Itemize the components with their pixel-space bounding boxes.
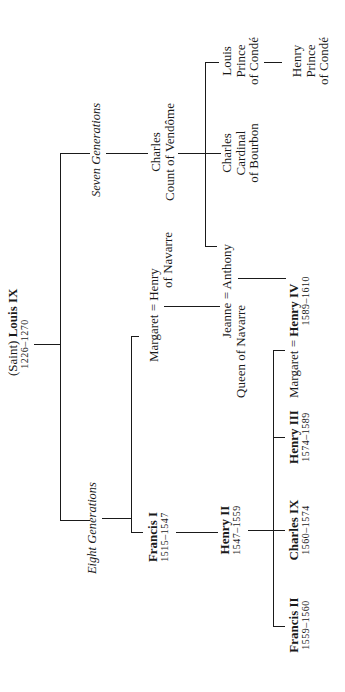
node-henry-iii: Henry III 1574–1589 (287, 404, 311, 470)
node-louis-ix: (Saint) Louis IX 1226–1270 (6, 312, 30, 376)
node-louis-conde: Louis Prince of Condé (220, 30, 261, 92)
charles-ix-years: 1560–1574 (301, 494, 312, 566)
node-charles-vendome: Charles Count of Vendôme (149, 96, 176, 208)
margaret-iv-stub (273, 350, 285, 351)
henry-conde-of: of Condé (317, 30, 331, 92)
cardinal-of: of Bourbon (247, 120, 261, 186)
henry-iii-name: Henry III (287, 404, 301, 470)
francis-i-stub (131, 532, 143, 533)
louis-conde-name: Louis (220, 30, 234, 92)
louis-conde-title: Prince (234, 30, 248, 92)
node-francis-ii: Francis II 1559–1560 (287, 590, 311, 660)
henry-iii-years: 1574–1589 (301, 404, 312, 470)
jeanne-anthony-couple: Jeanne = Anthony (220, 238, 234, 398)
charles-ix-stub (273, 530, 285, 531)
louis-conde-of: of Condé (247, 30, 261, 92)
francis-i-name: Francis I (146, 502, 160, 572)
seven-gen-line-b (106, 153, 148, 154)
seven-generations-label: Seven Generations (90, 100, 103, 200)
anthony-stub (205, 246, 217, 247)
margaret-henry-navarre-couple: Margaret = Henry (147, 232, 161, 362)
node-margaret-henry-navarre: Margaret = Henry of Navarre (147, 232, 174, 362)
henry-iv-name: Henry IV (286, 284, 301, 337)
henry-navarre-title: of Navarre (161, 232, 175, 362)
cardinal-title: Cardinal (234, 120, 248, 186)
vendome-children-vertical (205, 62, 206, 247)
francis-ii-name: Francis II (287, 590, 301, 660)
node-charles-ix: Charles IX 1560–1574 (287, 494, 311, 566)
margaret-iv-spouse: Margaret = (286, 337, 301, 398)
root-connector (34, 344, 61, 345)
charles-vendome-title: Count of Vendôme (163, 96, 177, 208)
henry-conde-title: Prince (304, 30, 318, 92)
henry-conde-name: Henry (290, 30, 304, 92)
node-charles-cardinal: Charles Cardinal of Bourbon (220, 120, 261, 186)
root-years: 1226–1270 (20, 312, 31, 376)
eight-generations-label: Eight Generations (86, 478, 99, 578)
henry-iv-years: 1589–1610 (301, 268, 312, 398)
node-jeanne-anthony: Jeanne = Anthony Queen of Navarre (220, 238, 247, 398)
seven-gen-line-a (60, 153, 90, 154)
jeanne-title: Queen of Navarre (234, 238, 248, 398)
henry-iii-stub (273, 437, 285, 438)
cardinal-name: Charles (220, 120, 234, 186)
valois-sibling-line (131, 336, 132, 533)
root-name: Louis IX (5, 289, 20, 338)
henry-ii-children-line (248, 530, 274, 531)
francis-ii-years: 1559–1560 (301, 590, 312, 660)
francis-ii-stub (273, 626, 285, 627)
conde-descent-line (264, 62, 282, 63)
node-margaret-henry-iv: Margaret = Henry IV 1589–1610 (287, 268, 311, 398)
louis-conde-stub (205, 62, 219, 63)
vendome-children-line (178, 153, 206, 154)
francis-henry-line (176, 532, 218, 533)
charles-vendome-name: Charles (149, 96, 163, 208)
henry-ii-children-vertical (273, 350, 274, 627)
margaret-stub (131, 336, 139, 337)
main-trunk (60, 153, 61, 521)
node-henry-conde: Henry Prince of Condé (290, 30, 331, 92)
root-prefix: (Saint) (5, 341, 20, 376)
eight-gen-line-b (102, 518, 132, 519)
node-henry-ii: Henry II 1547–1559 (218, 492, 242, 568)
henry-ii-years: 1547–1559 (232, 492, 243, 568)
henry-ii-name: Henry II (218, 492, 232, 568)
charles-ix-name: Charles IX (287, 494, 301, 566)
francis-i-years: 1515–1547 (160, 502, 171, 572)
node-francis-i: Francis I 1515–1547 (146, 502, 170, 572)
